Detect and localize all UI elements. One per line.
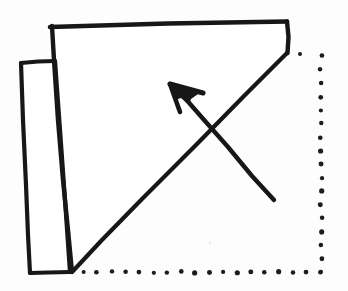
- edge-dot: [165, 270, 169, 274]
- edge-dot: [123, 269, 128, 274]
- edge-dot: [82, 270, 86, 274]
- scan-speck: [209, 242, 211, 244]
- flap-top-edge-line: [21, 61, 55, 63]
- edge-dot: [94, 270, 99, 275]
- stray-dot-mark: [298, 52, 302, 56]
- edge-dot: [320, 176, 324, 180]
- edge-dot: [318, 67, 322, 71]
- edge-dot: [304, 270, 309, 275]
- edge-dot: [319, 229, 324, 234]
- edge-dot: [192, 270, 197, 275]
- edge-dot: [318, 270, 322, 274]
- edge-dot: [320, 53, 325, 58]
- edge-dot: [319, 81, 324, 86]
- edge-dot: [235, 270, 240, 275]
- edge-dot: [179, 269, 184, 274]
- edge-dot: [319, 188, 324, 193]
- edge-dot: [291, 270, 296, 275]
- fold-diagram-svg: [0, 0, 348, 291]
- flap-bottom-edge-line: [30, 272, 70, 273]
- diagram-canvas: [0, 0, 348, 291]
- edge-dot: [319, 121, 323, 125]
- edge-dot: [318, 148, 323, 153]
- edge-dot: [207, 270, 212, 275]
- edge-dot: [319, 108, 323, 112]
- edge-dot: [152, 271, 156, 275]
- edge-dot: [221, 270, 225, 274]
- edge-dot: [319, 243, 324, 248]
- right-short-edge-line: [287, 22, 289, 54]
- edge-dot: [318, 202, 323, 207]
- edge-dot: [318, 135, 323, 140]
- edge-dot: [318, 95, 323, 100]
- edge-dot: [110, 269, 114, 273]
- edge-dot: [137, 270, 142, 275]
- edge-dot: [262, 270, 267, 275]
- edge-dot: [320, 215, 325, 220]
- edge-dot: [320, 256, 325, 261]
- edge-dot: [319, 161, 324, 166]
- edge-dot: [276, 269, 281, 274]
- edge-dot: [248, 269, 253, 274]
